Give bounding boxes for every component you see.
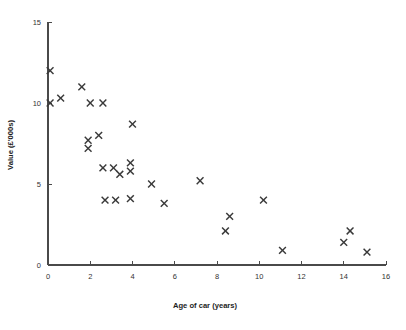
x-axis-title: Age of car (years) [173, 301, 238, 310]
data-point-marker [197, 177, 204, 184]
data-point-marker [110, 164, 117, 171]
data-point-marker [340, 239, 347, 246]
data-point-marker [85, 137, 92, 144]
y-tick-label: 5 [37, 180, 41, 189]
data-point-marker [127, 168, 134, 175]
data-point-marker [364, 249, 371, 256]
data-point-marker [129, 121, 136, 128]
y-tick-label: 10 [33, 99, 41, 108]
scatter-chart-figure: 0246810121416051015 Age of car (years) V… [0, 0, 406, 330]
data-point-marker [57, 95, 64, 102]
x-tick-label: 12 [297, 272, 305, 281]
data-point-marker [347, 228, 354, 235]
data-point-marker [222, 228, 229, 235]
data-point-marker [87, 100, 94, 107]
y-tick-label: 15 [33, 18, 41, 27]
data-point-marker [279, 247, 286, 254]
x-tick-label: 8 [215, 272, 219, 281]
x-tick-label: 2 [88, 272, 92, 281]
x-tick-label: 6 [173, 272, 177, 281]
data-point-marker [102, 197, 109, 204]
axis-ticks-group [48, 22, 386, 265]
data-point-marker [116, 171, 123, 178]
data-point-marker [78, 83, 85, 90]
data-point-marker [127, 195, 134, 202]
y-axis-title: Value (£'000s) [6, 120, 15, 170]
data-point-marker [226, 213, 233, 220]
scatter-plot-canvas: 0246810121416051015 Age of car (years) V… [0, 0, 406, 330]
data-point-marker [260, 197, 267, 204]
x-tick-label: 14 [340, 272, 348, 281]
x-tick-label: 4 [130, 272, 134, 281]
axes-group [48, 22, 386, 265]
data-point-marker [127, 160, 134, 167]
data-points-group [47, 67, 371, 255]
data-point-marker [148, 181, 155, 188]
data-point-marker [161, 200, 168, 207]
data-point-marker [100, 100, 107, 107]
y-tick-label: 0 [37, 261, 41, 270]
x-tick-label: 0 [46, 272, 50, 281]
x-tick-label: 10 [255, 272, 263, 281]
x-tick-label: 16 [382, 272, 390, 281]
data-point-marker [112, 197, 119, 204]
data-point-marker [100, 164, 107, 171]
data-point-marker [85, 145, 92, 152]
data-point-marker [95, 132, 102, 139]
